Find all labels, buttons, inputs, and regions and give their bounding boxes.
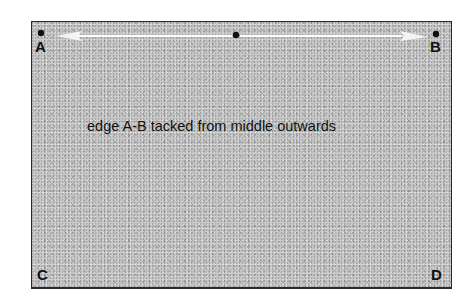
corner-label-b: B <box>430 38 441 55</box>
tacking-arrows <box>0 0 472 300</box>
corner-label-a: A <box>35 38 46 55</box>
corner-label-d: D <box>431 266 442 283</box>
point-a-dot <box>38 30 44 36</box>
corner-label-c: C <box>37 266 48 283</box>
point-b-dot <box>433 31 439 37</box>
arrow-to-b <box>240 31 428 41</box>
midpoint-dot <box>233 32 239 38</box>
diagram-caption: edge A-B tacked from middle outwards <box>87 118 336 134</box>
arrow-to-a <box>56 31 232 41</box>
